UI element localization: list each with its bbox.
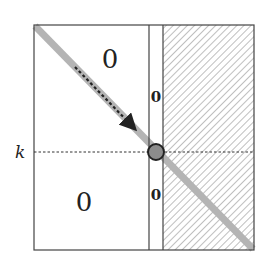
region-label-bottom-left: 0: [76, 187, 93, 217]
k-label: k: [15, 142, 25, 162]
intersection-circle: [148, 144, 164, 160]
region-label-column-top: 0: [151, 88, 161, 106]
diagram: k 0 0 0 0: [0, 0, 269, 271]
region-label-top-left: 0: [102, 44, 119, 74]
region-label-column-bottom: 0: [151, 186, 161, 204]
hatched-region: [163, 25, 254, 250]
